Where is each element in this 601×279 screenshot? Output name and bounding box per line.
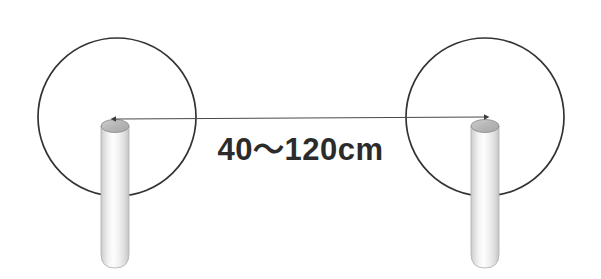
spacing-measure-arrow [116,117,484,119]
diagram-canvas: 40～120cm [0,0,601,279]
spacing-dimension-label: 40～120cm [0,124,601,169]
